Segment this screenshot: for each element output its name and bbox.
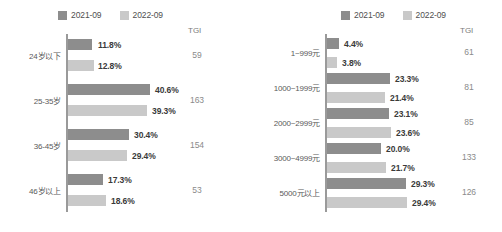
- bar-2022: [327, 197, 407, 208]
- bar-value-2021: 30.4%: [134, 130, 158, 140]
- bar-2021: [68, 84, 150, 95]
- bar-2021: [68, 39, 92, 50]
- legend-swatch-2021-icon: [58, 11, 67, 20]
- chart-panel-age: 2021-09 2022-09 TGI 24岁以下 11.8% 12.8% 25…: [0, 0, 251, 232]
- category-label: 46岁以上: [8, 185, 61, 196]
- tgi-value: 133: [457, 152, 481, 162]
- bar-value-2022: 29.4%: [412, 198, 436, 208]
- bar-value-2021: 4.4%: [344, 39, 363, 49]
- bar-value-2021: 23.3%: [395, 74, 419, 84]
- bar-value-2022: 21.4%: [390, 93, 414, 103]
- category-label: 3000~4999元: [255, 152, 320, 163]
- bar-value-2022: 3.8%: [342, 58, 361, 68]
- legend-swatch-2022-icon: [403, 11, 412, 20]
- tgi-value: 163: [185, 95, 209, 105]
- bar-2022: [68, 150, 127, 161]
- bar-value-2021: 29.3%: [411, 179, 435, 189]
- legend-label-2021: 2021-09: [354, 10, 385, 20]
- tgi-value: 53: [185, 185, 209, 195]
- bar-value-2022: 29.4%: [132, 151, 156, 161]
- bar-2022: [68, 105, 147, 116]
- tgi-value: 154: [185, 140, 209, 150]
- bar-value-2021: 23.1%: [394, 109, 418, 119]
- legend-swatch-2021-icon: [341, 11, 350, 20]
- tgi-value: 126: [457, 187, 481, 197]
- legend-age: 2021-09 2022-09: [58, 10, 163, 20]
- bar-value-2022: 21.7%: [391, 163, 415, 173]
- bar-value-2022: 18.6%: [111, 196, 135, 206]
- category-label: 24岁以下: [8, 50, 61, 61]
- bar-value-2022: 39.3%: [152, 106, 176, 116]
- category-label: 5000元以上: [255, 187, 320, 198]
- legend-label-2022: 2022-09: [133, 10, 164, 20]
- bar-2022: [327, 57, 337, 68]
- category-label: 2000~2999元: [255, 117, 320, 128]
- chart-panel-income: 2021-09 2022-09 TGI 1~999元 4.4% 3.8% 100…: [251, 0, 502, 232]
- bar-2021: [68, 174, 103, 185]
- dual-bar-chart-figure: 2021-09 2022-09 TGI 24岁以下 11.8% 12.8% 25…: [0, 0, 502, 232]
- bar-2021: [327, 38, 339, 49]
- legend-entry-2021: 2021-09: [58, 10, 102, 20]
- bar-2022: [327, 127, 391, 138]
- bar-value-2021: 20.0%: [386, 144, 410, 154]
- bar-2021: [327, 178, 406, 189]
- bar-2022: [68, 60, 94, 71]
- bar-2022: [327, 162, 386, 173]
- category-label: 1000~1999元: [255, 82, 320, 93]
- legend-entry-2021: 2021-09: [341, 10, 385, 20]
- bar-2021: [68, 129, 129, 140]
- legend-entry-2022: 2022-09: [120, 10, 164, 20]
- bar-2021: [327, 108, 389, 119]
- bar-2021: [327, 73, 390, 84]
- bar-value-2021: 40.6%: [155, 85, 179, 95]
- legend-label-2021: 2021-09: [71, 10, 102, 20]
- tgi-value: 81: [457, 82, 481, 92]
- tgi-value: 59: [185, 50, 209, 60]
- bar-2021: [327, 143, 381, 154]
- legend-entry-2022: 2022-09: [403, 10, 447, 20]
- bar-value-2021: 11.8%: [98, 40, 121, 50]
- category-label: 1~999元: [255, 47, 320, 58]
- tgi-value: 61: [457, 47, 481, 57]
- legend-swatch-2022-icon: [120, 11, 129, 20]
- tgi-value: 85: [457, 117, 481, 127]
- bar-value-2021: 17.3%: [108, 175, 132, 185]
- bar-value-2022: 23.6%: [396, 128, 420, 138]
- bar-2022: [68, 195, 106, 206]
- category-label: 36-45岁: [8, 140, 61, 151]
- category-label: 25-35岁: [8, 95, 61, 106]
- bar-2022: [327, 92, 385, 103]
- legend-label-2022: 2022-09: [416, 10, 447, 20]
- bar-value-2022: 12.8%: [98, 61, 122, 71]
- legend-income: 2021-09 2022-09: [341, 10, 446, 20]
